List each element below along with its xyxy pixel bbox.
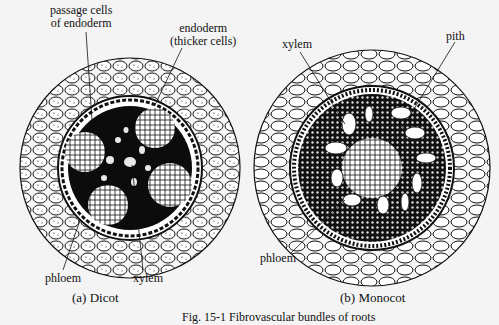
panel-b-label: (b) Monocot [340, 290, 405, 306]
label-dicot-xylem: xylem [133, 272, 163, 285]
panel-a-label: (a) Dicot [72, 290, 119, 306]
label-endoderm-line2: (thicker cells) [170, 35, 236, 48]
label-passage-cells-line2: of endoderm [50, 17, 112, 30]
label-endoderm: endoderm (thicker cells) [170, 22, 236, 48]
figure-caption: Fig. 15-1 Fibrovascular bundles of roots [182, 310, 375, 325]
dicot-root-diagram [20, 58, 240, 278]
label-monocot-phloem: phloem [260, 252, 296, 265]
label-dicot-phloem: phloem [45, 272, 81, 285]
label-passage-cells: passage cells of endoderm [50, 4, 112, 30]
label-monocot-xylem: xylem [282, 38, 312, 51]
label-monocot-pith: pith [446, 30, 465, 43]
